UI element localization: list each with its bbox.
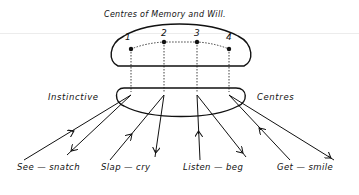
memory-association-arc [131, 42, 229, 49]
memory-will-centre-shape [111, 24, 251, 66]
reflex-label-get-smile: Get — smile [277, 163, 333, 172]
memory-connection-lines [131, 42, 229, 92]
reflex-slap-cry-arrows [110, 95, 164, 160]
reflex-label-slap-cry: Slap — cry [101, 163, 150, 172]
memory-node-dots [129, 40, 231, 51]
reflex-label-listen-beg: Listen — beg [183, 163, 243, 172]
memory-node-label-4: 4 [226, 33, 232, 42]
instinctive-centre-shape [117, 88, 246, 117]
reflex-label-see-snatch: See — snatch [17, 163, 80, 172]
memory-node-label-1: 1 [125, 33, 131, 42]
diagram-title: Centres of Memory and Will. [104, 11, 226, 19]
reflex-see-snatch-arrows [24, 95, 131, 160]
instinctive-label: Instinctive [48, 93, 99, 102]
memory-node-label-2: 2 [161, 29, 167, 38]
centres-label: Centres [257, 93, 294, 102]
memory-node-label-3: 3 [194, 29, 200, 38]
reflex-get-smile-arrows [229, 95, 334, 160]
